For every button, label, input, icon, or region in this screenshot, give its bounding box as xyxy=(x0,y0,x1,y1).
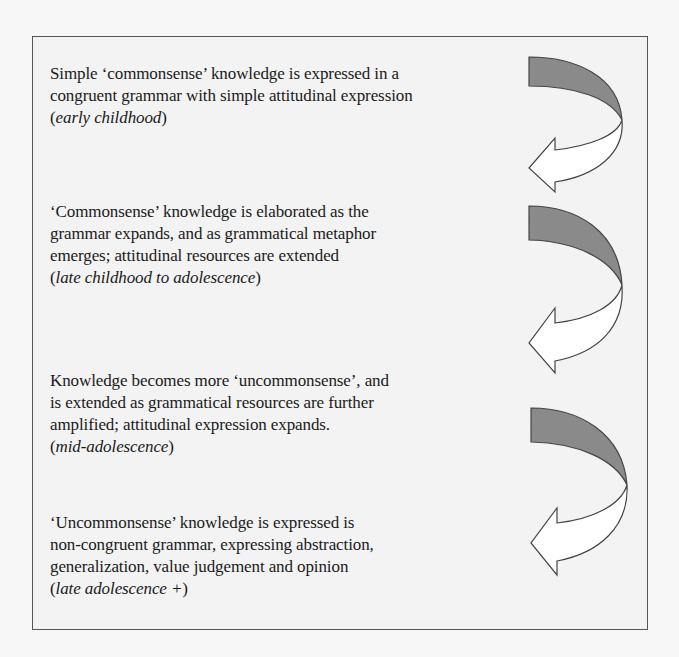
stage-mid-adolescence: Knowledge becomes more ‘uncommonsense’, … xyxy=(50,370,500,458)
stage-early-childhood: Simple ‘commonsense’ knowledge is expres… xyxy=(50,63,500,129)
curved-arrow-down-left-icon xyxy=(525,405,633,580)
stage-text-line: Knowledge becomes more ‘uncommonsense’, … xyxy=(50,370,500,392)
stage-period: (early childhood) xyxy=(50,107,500,129)
curved-arrow-down-left-icon xyxy=(525,54,630,196)
stage-text-line: ‘Commonsense’ knowledge is elaborated as… xyxy=(50,201,500,223)
stage-period: (late childhood to adolescence) xyxy=(50,267,500,289)
stage-late-adolescence: ‘Uncommonsense’ knowledge is expressed i… xyxy=(50,512,500,600)
stage-text-line: is extended as grammatical resources are… xyxy=(50,392,500,414)
stage-text-line: grammar expands, and as grammatical meta… xyxy=(50,223,500,245)
stage-period: (late adolescence +) xyxy=(50,578,500,600)
stage-late-childhood: ‘Commonsense’ knowledge is elaborated as… xyxy=(50,201,500,289)
stage-text-line: non-congruent grammar, expressing abstra… xyxy=(50,534,500,556)
stage-text-line: congruent grammar with simple attitudina… xyxy=(50,85,500,107)
stage-text-line: emerges; attitudinal resources are exten… xyxy=(50,245,500,267)
stage-text-line: Simple ‘commonsense’ knowledge is expres… xyxy=(50,63,500,85)
curved-arrow-down-left-icon xyxy=(525,203,630,378)
stage-text-line: amplified; attitudinal expression expand… xyxy=(50,414,500,436)
stage-text-line: generalization, value judgement and opin… xyxy=(50,556,500,578)
stage-period: (mid-adolescence) xyxy=(50,436,500,458)
stage-text-line: ‘Uncommonsense’ knowledge is expressed i… xyxy=(50,512,500,534)
